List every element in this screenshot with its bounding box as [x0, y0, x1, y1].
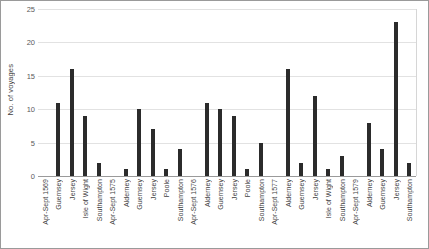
- x-axis-label: Alderney: [365, 179, 372, 247]
- x-axis-label-text: Southampton: [257, 179, 264, 221]
- x-axis-label: Southampton: [257, 179, 264, 247]
- chart-frame: No. of voyages 0510152025 Apr-Sept 1569G…: [0, 0, 429, 249]
- bar[interactable]: [259, 143, 263, 176]
- x-axis-label-text: Southampton: [176, 179, 183, 221]
- x-axis-label: Isle of Wight: [82, 179, 89, 247]
- bar[interactable]: [124, 169, 128, 176]
- x-axis-label-text: Isle of Wight: [325, 179, 332, 218]
- y-axis-tick-labels: 0510152025: [1, 9, 35, 176]
- x-axis-group-label: Apr-Sept 1579: [352, 179, 359, 247]
- bar[interactable]: [218, 109, 222, 176]
- x-axis-label: Poole: [244, 179, 251, 247]
- x-axis-label-text: Alderney: [122, 179, 129, 207]
- bar[interactable]: [299, 163, 303, 176]
- y-tick-label-5: 5: [3, 138, 35, 147]
- y-tick-label-15: 15: [3, 71, 35, 80]
- x-axis-group-label: Apr-Sept 1575: [109, 179, 116, 247]
- y-tick-label-25: 25: [3, 5, 35, 14]
- bar[interactable]: [394, 22, 398, 176]
- x-axis-label: Alderney: [203, 179, 210, 247]
- x-axis-label-text: Apr-Sept 1576: [190, 179, 197, 225]
- x-axis-label-text: Jersey: [230, 179, 237, 200]
- bar[interactable]: [83, 116, 87, 176]
- x-axis-label-text: Apr-Sept 1577: [271, 179, 278, 225]
- x-axis-label: Guernsey: [298, 179, 305, 247]
- x-axis-label: Isle of Wight: [325, 179, 332, 247]
- bar[interactable]: [367, 123, 371, 176]
- bar[interactable]: [97, 163, 101, 176]
- bar[interactable]: [178, 149, 182, 176]
- x-axis-label-text: Guernsey: [217, 179, 224, 210]
- bar[interactable]: [340, 156, 344, 176]
- x-axis-label-text: Jersey: [392, 179, 399, 200]
- x-axis-label-text: Apr-Sept 1575: [109, 179, 116, 225]
- x-axis-label-text: Alderney: [284, 179, 291, 207]
- bars-layer: [38, 9, 416, 176]
- x-axis-label: Southampton: [338, 179, 345, 247]
- x-axis-label-text: Isle of Wight: [82, 179, 89, 218]
- x-axis-label: Southampton: [95, 179, 102, 247]
- x-axis-label: Jersey: [311, 179, 318, 247]
- x-axis-category-labels: Apr-Sept 1569GuernseyJerseyIsle of Wight…: [38, 177, 416, 247]
- x-axis-label: Jersey: [149, 179, 156, 247]
- x-axis-label-text: Apr-Sept 1579: [352, 179, 359, 225]
- x-axis-label: Guernsey: [217, 179, 224, 247]
- x-axis-label-text: Southampton: [406, 179, 413, 221]
- x-axis-label-text: Southampton: [95, 179, 102, 221]
- x-axis-group-label: Apr-Sept 1576: [190, 179, 197, 247]
- x-axis-label-text: Guernsey: [379, 179, 386, 210]
- bar[interactable]: [137, 109, 141, 176]
- x-axis-label: Alderney: [122, 179, 129, 247]
- bar[interactable]: [151, 129, 155, 176]
- x-axis-group-label: Apr-Sept 1577: [271, 179, 278, 247]
- x-axis-label-text: Southampton: [338, 179, 345, 221]
- bar[interactable]: [245, 169, 249, 176]
- bar[interactable]: [164, 169, 168, 176]
- x-axis-label: Jersey: [230, 179, 237, 247]
- x-axis-label-text: Jersey: [149, 179, 156, 200]
- x-axis-label: Alderney: [284, 179, 291, 247]
- bar[interactable]: [313, 96, 317, 176]
- y-tick-label-20: 20: [3, 38, 35, 47]
- x-axis-label: Guernsey: [379, 179, 386, 247]
- x-axis-label-text: Jersey: [68, 179, 75, 200]
- y-tick-label-10: 10: [3, 105, 35, 114]
- x-axis-label: Southampton: [176, 179, 183, 247]
- x-axis-label: Southampton: [406, 179, 413, 247]
- bar[interactable]: [380, 149, 384, 176]
- x-axis-group-label: Apr-Sept 1569: [41, 179, 48, 247]
- bar[interactable]: [232, 116, 236, 176]
- plot-area: [38, 9, 417, 176]
- x-axis-label-text: Guernsey: [136, 179, 143, 210]
- x-axis-label-text: Alderney: [203, 179, 210, 207]
- bar[interactable]: [70, 69, 74, 176]
- x-axis-label: Guernsey: [136, 179, 143, 247]
- bar[interactable]: [56, 103, 60, 176]
- x-axis-label-text: Guernsey: [55, 179, 62, 210]
- x-axis-label-text: Alderney: [365, 179, 372, 207]
- x-axis-label-text: Jersey: [311, 179, 318, 200]
- x-axis-label: Jersey: [68, 179, 75, 247]
- x-axis-label: Poole: [163, 179, 170, 247]
- bar[interactable]: [326, 169, 330, 176]
- y-tick-label-0: 0: [3, 172, 35, 181]
- bar[interactable]: [286, 69, 290, 176]
- bar[interactable]: [205, 103, 209, 176]
- x-axis-label: Guernsey: [55, 179, 62, 247]
- x-axis-label-text: Poole: [244, 179, 251, 197]
- bar[interactable]: [407, 163, 411, 176]
- x-axis-label-text: Poole: [163, 179, 170, 197]
- x-axis-label-text: Guernsey: [298, 179, 305, 210]
- x-axis-label: Jersey: [392, 179, 399, 247]
- x-axis-label-text: Apr-Sept 1569: [41, 179, 48, 225]
